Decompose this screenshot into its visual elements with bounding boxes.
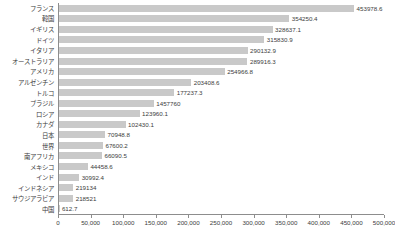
bar-value-label: 328637.1	[275, 26, 301, 33]
x-tick-label: 0	[56, 219, 59, 226]
category-label: イタリア	[0, 45, 56, 56]
x-tick-label: 500,000	[373, 219, 395, 226]
bar-value-label: 354250.4	[292, 15, 318, 22]
bar	[59, 131, 105, 138]
bar-row: 203408.6	[59, 77, 384, 88]
x-axis: 050,000100,000150,000200,000250,000300,0…	[58, 215, 384, 235]
x-tick	[221, 215, 222, 218]
x-tick	[384, 215, 385, 218]
bar-row: 102430.1	[59, 119, 384, 130]
category-label: オーストラリア	[0, 56, 56, 67]
bar-value-label: 289916.3	[250, 58, 276, 65]
bar-row: 177237.3	[59, 87, 384, 98]
x-tick	[188, 215, 189, 218]
bar-row: 218521	[59, 193, 384, 204]
x-tick-label: 250,000	[210, 219, 232, 226]
x-tick-label: 200,000	[177, 219, 199, 226]
x-tick-label: 400,000	[308, 219, 330, 226]
bar-row: 254966.8	[59, 66, 384, 77]
category-label: ロシア	[0, 109, 56, 120]
bar-row: 66090.5	[59, 151, 384, 162]
bar-row: 289916.3	[59, 56, 384, 67]
category-label: トルコ	[0, 88, 56, 99]
bar-row: 315830.9	[59, 35, 384, 46]
category-label: 中国	[0, 204, 56, 215]
bar	[59, 195, 73, 202]
bar-value-label: 453978.6	[357, 5, 383, 12]
category-label: 南アフリカ	[0, 151, 56, 162]
bar-rows: 453978.6354250.4328637.1315830.9290132.9…	[59, 3, 384, 214]
category-label: サウジアラビア	[0, 194, 56, 205]
bar-value-label: 30992.4	[82, 174, 104, 181]
bar-row: 219134	[59, 182, 384, 193]
bar-value-label: 67600.2	[105, 142, 127, 149]
bar-row: 44458.6	[59, 161, 384, 172]
x-tick	[58, 215, 59, 218]
category-label: カナダ	[0, 120, 56, 131]
category-label: アルゼンチン	[0, 77, 56, 88]
bar	[59, 15, 289, 22]
category-label: 韓国	[0, 14, 56, 25]
x-tick	[156, 215, 157, 218]
bar-row: 30992.4	[59, 172, 384, 183]
x-tick	[286, 215, 287, 218]
x-tick-label: 50,000	[81, 219, 100, 226]
bar-row: 1457760	[59, 98, 384, 109]
x-tick-label: 100,000	[112, 219, 134, 226]
bar-row: 70948.8	[59, 130, 384, 141]
category-label: ドイツ	[0, 35, 56, 46]
bar-value-label: 612.7	[62, 205, 77, 212]
bar	[59, 58, 247, 65]
x-tick-label: 150,000	[145, 219, 167, 226]
bar-row: 328637.1	[59, 24, 384, 35]
x-tick	[123, 215, 124, 218]
bar-value-label: 70948.8	[108, 131, 130, 138]
x-tick	[91, 215, 92, 218]
x-tick	[351, 215, 352, 218]
bar-row: 123960.1	[59, 108, 384, 119]
category-label: ブラジル	[0, 98, 56, 109]
bar-row: 67600.2	[59, 140, 384, 151]
x-tick	[319, 215, 320, 218]
category-label: 日本	[0, 130, 56, 141]
bar	[59, 121, 126, 128]
category-label: メキシコ	[0, 162, 56, 173]
bar	[59, 68, 225, 75]
bar-value-label: 102430.1	[128, 121, 154, 128]
bar-value-label: 219134	[76, 184, 97, 191]
category-label: イギリス	[0, 24, 56, 35]
category-label: インドネシア	[0, 183, 56, 194]
bar-value-label: 1457760	[156, 100, 180, 107]
bar-value-label: 254966.8	[227, 68, 253, 75]
bar-value-label: 66090.5	[104, 152, 126, 159]
bar	[59, 152, 102, 159]
plot-area: 453978.6354250.4328637.1315830.9290132.9…	[58, 3, 384, 215]
bar-row: 354250.4	[59, 14, 384, 25]
bar	[59, 163, 88, 170]
category-label: フランス	[0, 3, 56, 14]
category-label: 世界	[0, 141, 56, 152]
bar-value-label: 123960.1	[142, 110, 168, 117]
bar	[59, 26, 273, 33]
bar-value-label: 218521	[76, 195, 97, 202]
bar	[59, 100, 154, 107]
bar	[59, 110, 140, 117]
category-label: インド	[0, 173, 56, 184]
bar-row: 290132.9	[59, 45, 384, 56]
bar-row: 453978.6	[59, 3, 384, 14]
bar	[59, 174, 79, 181]
bar-value-label: 315830.9	[267, 36, 293, 43]
bar-value-label: 203408.6	[194, 79, 220, 86]
bar-value-label: 177237.3	[177, 89, 203, 96]
x-tick-label: 300,000	[242, 219, 264, 226]
x-tick	[254, 215, 255, 218]
bar	[59, 89, 174, 96]
bar-value-label: 290132.9	[250, 47, 276, 54]
bar	[59, 36, 264, 43]
bar-value-label: 44458.6	[90, 163, 112, 170]
bar-row: 612.7	[59, 203, 384, 214]
category-label: アメリカ	[0, 67, 56, 78]
bar	[59, 142, 103, 149]
bar	[59, 47, 248, 54]
